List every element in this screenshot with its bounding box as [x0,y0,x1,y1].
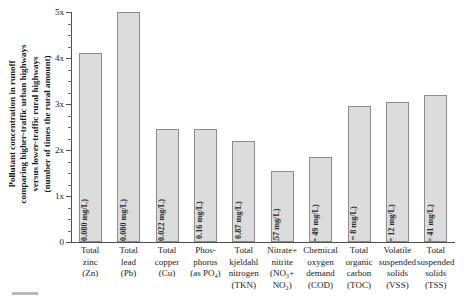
x-axis-category-line: phorus [186,257,224,269]
x-axis-category-label: Nitrate+nitrite(NO₃+NO₂) [263,245,301,291]
x-axis-category-line: (NO₃+ [263,268,301,280]
x-axis-category-line: kjeldahl [225,257,263,269]
bar-chart: Pollutant concentration in runoff compar… [0,0,465,300]
x-axis-category-line: (TOC) [340,280,378,292]
y-axis-tick-label: 5x [55,8,64,17]
bar-slot: (Rural = 8 mg/L) [348,12,371,242]
bar[interactable]: (Rural = 0.87 mg/L) [232,141,255,242]
bar-slot: (Rural = 12 mg/L) [386,12,409,242]
bar-slot: (R = 0.57 mg/L) [271,12,294,242]
bar-value-label: (Rural = 0.080 mg/L) [80,199,90,242]
bar-value-label: (R = 0.57 mg/L) [272,208,282,242]
x-axis-category-line: carbon [340,268,378,280]
x-axis-category-line: Chemical [301,245,339,257]
y-axis-title-line-3: versus lower-traffic rural highways [30,56,42,191]
bar[interactable]: (Rural = 41 mg/L) [424,95,447,242]
x-axis-category-line: nitrite [263,257,301,269]
x-axis-category-line: (COD) [301,280,339,292]
x-axis-category-line: Total [340,245,378,257]
bar-slot: (Rural = 0.080 mg/L) [79,12,102,242]
x-axis-category-line: demand [301,268,339,280]
bar-value-label: (Rural = 8 mg/L) [349,206,359,242]
y-axis-tick-label: 3x [55,100,64,109]
bar-value-label: (Rural = 0.080 mg/L) [119,199,129,242]
bar[interactable]: (R = 0.57 mg/L) [271,171,294,242]
x-axis-category-line: zinc [71,257,109,269]
y-axis-title-line-1: Pollutant concentration in runoff [7,61,19,188]
y-axis-title-line-4: (number of times the rural amount) [42,56,54,193]
bar-slot: (Rural = 41 mg/L) [424,12,447,242]
plot-area: 01x2x3x4x5x (Rural = 0.080 mg/L)(Rural =… [71,12,455,242]
x-axis-category-line: oxygen [301,257,339,269]
x-axis-category-line: Phos- [186,245,224,257]
bar-slot: (Rural = 0.022 mg/L) [156,12,179,242]
x-axis-category-line: Total [109,245,147,257]
x-axis-category-line: suspended [378,257,416,269]
y-axis-tick-label: 1x [55,192,64,201]
y-axis-title-line-2: comparing higher-traffic urban highways [18,44,30,203]
x-axis-category-label: Totalsuspendedsolids(TSS) [417,245,455,291]
x-axis-category-line: nitrogen [225,268,263,280]
x-axis-category-label: Totalorganiccarbon(TOC) [340,245,378,291]
bar-value-label: (Rural = 0.87 mg/L) [234,201,244,242]
x-axis-category-line: Nitrate+ [263,245,301,257]
bar-slot: (Rural = 49 mg/L) [309,12,332,242]
bar[interactable]: (Rural = 0.080 mg/L) [117,12,140,242]
x-axis-category-label: Phos-phorus(as PO₄) [186,245,224,280]
x-axis-category-line: solids [417,268,455,280]
x-axis-category-line: solids [378,268,416,280]
bar[interactable]: (Rural = 8 mg/L) [348,106,371,242]
bar[interactable]: (Rural = 0.080 mg/L) [79,53,102,242]
x-axis-category-line: Volatile [378,245,416,257]
bar-slot: (Rural = 0.16 mg/L) [194,12,217,242]
x-axis-category-line: Total [71,245,109,257]
bar[interactable]: (Rural = 0.16 mg/L) [194,129,217,242]
x-axis-category-label: Totalkjeldahlnitrogen(TKN) [225,245,263,291]
x-axis-category-line: (Pb) [109,268,147,280]
x-axis-category-line: Total [148,245,186,257]
y-axis-title: Pollutant concentration in runoff compar… [1,0,59,248]
x-axis-category-line: (TSS) [417,280,455,292]
bar[interactable]: (Rural = 0.022 mg/L) [156,129,179,242]
x-axis-category-line: (VSS) [378,280,416,292]
x-axis-category-line: (as PO₄) [186,268,224,280]
x-axis-category-line: organic [340,257,378,269]
x-axis-category-line: NO₂) [263,280,301,292]
x-axis-category-line: (Cu) [148,268,186,280]
y-axis-tick-label: 2x [55,146,64,155]
bar-value-label: (Rural = 12 mg/L) [387,204,397,242]
bar-value-label: (Rural = 49 mg/L) [311,204,321,242]
bar[interactable]: (Rural = 49 mg/L) [309,157,332,242]
y-axis-major-tick [66,242,72,243]
x-axis-category-label: Totallead(Pb) [109,245,147,280]
y-axis-tick-label: 4x [55,54,64,63]
x-axis-category-line: (TKN) [225,280,263,292]
bar-value-label: (Rural = 0.022 mg/L) [157,199,167,242]
x-axis-category-label: Chemicaloxygendemand(COD) [301,245,339,291]
x-axis-category-line: lead [109,257,147,269]
x-axis-category-label: Totalcopper(Cu) [148,245,186,280]
bar-value-label: (Rural = 41 mg/L) [426,204,436,242]
bar-slot: (Rural = 0.080 mg/L) [117,12,140,242]
bars-layer: (Rural = 0.080 mg/L)(Rural = 0.080 mg/L)… [71,12,455,242]
x-axis-category-line: suspended [417,257,455,269]
x-axis-category-line: Total [225,245,263,257]
page-footer-mark [12,292,38,295]
x-axis-labels: Totalzinc(Zn)Totallead(Pb)Totalcopper(Cu… [71,245,455,300]
x-axis-category-label: Totalzinc(Zn) [71,245,109,280]
bar[interactable]: (Rural = 12 mg/L) [386,102,409,242]
x-axis-category-label: Volatilesuspendedsolids(VSS) [378,245,416,291]
x-axis-category-line: Total [417,245,455,257]
x-axis-category-line: (Zn) [71,268,109,280]
bar-value-label: (Rural = 0.16 mg/L) [195,201,205,242]
y-axis-tick-label: 0 [60,238,65,247]
bar-slot: (Rural = 0.87 mg/L) [232,12,255,242]
x-axis-category-line: copper [148,257,186,269]
x-axis-line [71,242,455,243]
